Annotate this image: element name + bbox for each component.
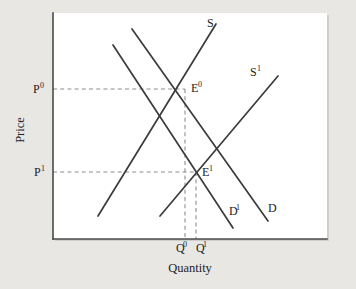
- x-axis-title: Quantity: [168, 261, 212, 275]
- equilibrium-label-e0-superscript: 0: [198, 80, 202, 89]
- price-label-p0: P0: [33, 81, 44, 96]
- price-label-p1-text: P: [34, 165, 41, 179]
- price-label-p0-text: P: [33, 82, 40, 96]
- quantity-label-q1: Q1: [196, 240, 207, 255]
- curve-label-s1-superscript: 1: [257, 64, 261, 73]
- quantity-label-q1-superscript: 1: [203, 240, 207, 249]
- quantity-label-q0: Q0: [176, 240, 187, 255]
- quantity-label-q0-superscript: 0: [183, 240, 187, 249]
- curve-label-d1-superscript: 1: [236, 203, 240, 212]
- equilibrium-label-e1-superscript: 1: [209, 164, 213, 173]
- diagram-canvas: SS1DD1E0E1P0P1Q0Q1QuantityPrice: [0, 0, 356, 289]
- curve-label-d-text: D: [268, 201, 277, 215]
- price-label-p1: P1: [34, 164, 45, 179]
- curve-label-s1-text: S: [250, 65, 257, 79]
- price-label-p1-superscript: 1: [41, 164, 45, 173]
- curve-label-s: S: [207, 16, 214, 30]
- curve-label-d: D: [268, 201, 277, 215]
- plot-background: [53, 13, 327, 239]
- supply-demand-figure: SS1DD1E0E1P0P1Q0Q1QuantityPrice: [0, 0, 356, 289]
- curve-label-s-text: S: [207, 16, 214, 30]
- price-label-p0-superscript: 0: [40, 81, 44, 90]
- y-axis-title: Price: [13, 117, 27, 143]
